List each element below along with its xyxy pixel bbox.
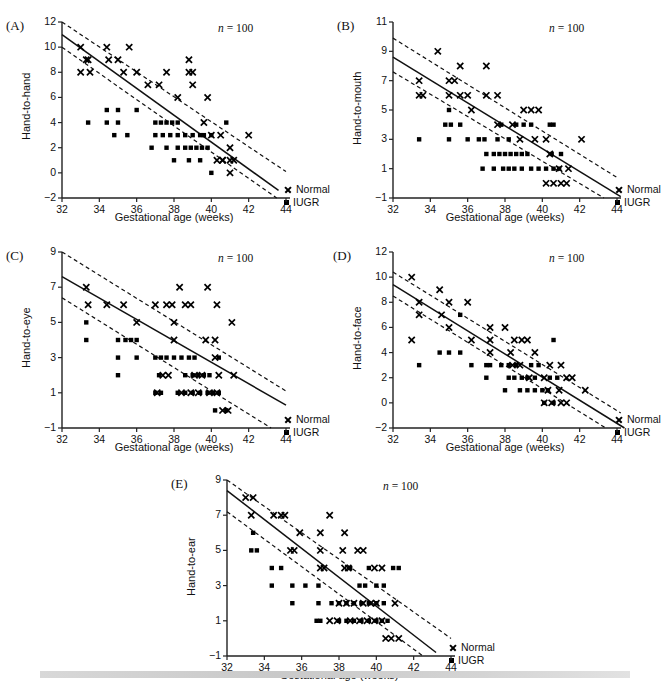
y-tick-label: 4: [32, 116, 56, 128]
y-tick-label: 7: [32, 280, 56, 292]
x-tick-label: 38: [493, 433, 517, 445]
x-tick-label: 38: [493, 203, 517, 215]
x-tick-label: 40: [199, 433, 223, 445]
y-tick-label: 3: [197, 579, 221, 591]
x-tick-label: 40: [199, 203, 223, 215]
y-tick-label: 12: [363, 245, 387, 257]
x-tick-label: 42: [237, 433, 261, 445]
y-tick-label: 6: [363, 320, 387, 332]
series-normal: [416, 48, 585, 186]
y-tick-label: 12: [32, 15, 56, 27]
x-tick-label: 36: [456, 433, 480, 445]
y-tick-label: 7: [363, 74, 387, 86]
series-iugr: [249, 531, 401, 623]
x-tick-label: 34: [87, 203, 111, 215]
x-tick-label: 32: [50, 433, 74, 445]
x-tick-label: 38: [162, 433, 186, 445]
y-tick-label: 6: [32, 90, 56, 102]
y-tick-label: 2: [363, 371, 387, 383]
series-iugr: [84, 320, 228, 412]
panel-c: (C) n = 100 Hand-to-eye Gestational age …: [0, 230, 330, 460]
x-tick-label: 44: [274, 203, 298, 215]
x-tick-label: 34: [418, 203, 442, 215]
y-tick-label: 0: [363, 396, 387, 408]
y-tick-label: 8: [32, 65, 56, 77]
series-normal: [409, 274, 589, 406]
x-tick-label: 38: [162, 203, 186, 215]
y-tick-label: 5: [363, 103, 387, 115]
x-tick-label: 32: [381, 203, 405, 215]
x-tick-label: 42: [568, 433, 592, 445]
panel-a: (A) n = 100 Hand-to-hand Gestational age…: [0, 0, 330, 230]
figure-container: (A) n = 100 Hand-to-hand Gestational age…: [0, 0, 661, 689]
y-tick-label: 3: [32, 351, 56, 363]
x-tick-label: 34: [418, 433, 442, 445]
y-tick-label: 3: [363, 132, 387, 144]
y-tick-label: 8: [363, 295, 387, 307]
y-tick-label: −1: [32, 421, 56, 433]
y-tick-label: −1: [363, 191, 387, 203]
y-tick-label: 7: [197, 508, 221, 520]
y-tick-label: −2: [32, 191, 56, 203]
y-tick-label: 11: [363, 15, 387, 27]
x-tick-label: 40: [530, 433, 554, 445]
x-tick-label: 42: [237, 203, 261, 215]
x-tick-label: 34: [87, 433, 111, 445]
series-iugr: [86, 108, 229, 175]
y-tick-label: 9: [363, 44, 387, 56]
y-tick-label: 1: [32, 386, 56, 398]
x-tick-label: 44: [605, 433, 629, 445]
y-tick-label: 2: [32, 141, 56, 153]
y-tick-label: −1: [197, 649, 221, 661]
x-tick-label: 36: [456, 203, 480, 215]
y-tick-label: 1: [197, 614, 221, 626]
x-tick-label: 36: [125, 203, 149, 215]
x-tick-label: 32: [381, 433, 405, 445]
x-tick-label: 36: [125, 433, 149, 445]
panel-e: (E) n = 100 Hand-to-ear Gestational age …: [165, 458, 495, 688]
y-tick-label: 9: [197, 473, 221, 485]
x-tick-label: 32: [50, 203, 74, 215]
x-tick-label: 40: [530, 203, 554, 215]
x-tick-label: 42: [568, 203, 592, 215]
y-tick-label: 5: [32, 315, 56, 327]
x-tick-label: 44: [605, 203, 629, 215]
panel-b: (B) n = 100 Hand-to-mouth Gestational ag…: [331, 0, 661, 230]
y-tick-label: −2: [363, 421, 387, 433]
y-tick-label: 5: [197, 543, 221, 555]
footer-rule: [40, 671, 630, 678]
y-tick-label: 9: [32, 245, 56, 257]
x-tick-label: 44: [274, 433, 298, 445]
y-tick-label: 0: [32, 166, 56, 178]
y-tick-label: 10: [363, 270, 387, 282]
y-tick-label: 1: [363, 162, 387, 174]
y-tick-label: 10: [32, 40, 56, 52]
y-tick-label: 4: [363, 346, 387, 358]
panel-d: (D) n = 100 Hand-to-face Gestational age…: [331, 230, 661, 460]
